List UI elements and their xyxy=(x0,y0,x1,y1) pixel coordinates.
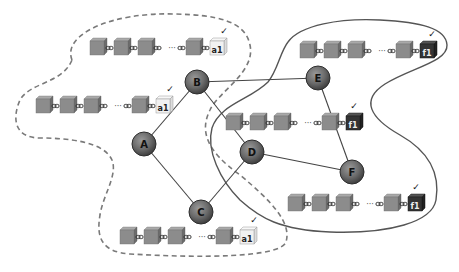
chain-tip-f1: f1 xyxy=(420,41,437,58)
svg-text:F: F xyxy=(349,167,356,178)
chain-ellipsis: ··· xyxy=(168,44,176,53)
svg-text:B: B xyxy=(193,77,201,88)
svg-text:a1: a1 xyxy=(212,46,223,55)
chain-ellipsis: ··· xyxy=(304,119,312,128)
node-f: F xyxy=(340,160,364,184)
svg-text:C: C xyxy=(197,207,204,218)
checkmark-icon: ✓ xyxy=(166,84,174,94)
node-e: E xyxy=(306,66,330,90)
chain-ellipsis: ··· xyxy=(378,47,386,56)
svg-text:f1: f1 xyxy=(422,49,431,58)
checkmark-icon: ✓ xyxy=(412,182,420,192)
svg-text:f1: f1 xyxy=(410,202,419,211)
node-d: D xyxy=(240,140,264,164)
svg-text:f1: f1 xyxy=(348,121,357,130)
svg-text:D: D xyxy=(248,147,256,158)
edge-a-c xyxy=(144,144,201,212)
chain-tip-f1: f1 xyxy=(346,113,363,130)
edge-d-f xyxy=(252,152,352,172)
chain-ellipsis: ··· xyxy=(198,233,206,242)
checkmark-icon: ✓ xyxy=(350,101,358,111)
checkmark-icon: ✓ xyxy=(428,29,436,39)
svg-text:A: A xyxy=(140,139,148,150)
chain-bottom-right: ··· f1 ✓ xyxy=(288,182,425,211)
chain-tip-f1: f1 xyxy=(408,194,425,211)
network-diagram: ··· a1 ✓ ··· a1 ✓ ··· a1 ✓ xyxy=(0,0,459,272)
edge-b-e xyxy=(197,78,318,82)
node-a: A xyxy=(132,132,156,156)
chain-left: ··· a1 ✓ xyxy=(36,84,174,113)
node-c: C xyxy=(189,200,213,224)
edge-b-d xyxy=(197,82,252,152)
svg-text:a1: a1 xyxy=(158,104,169,113)
chain-top-right: ··· f1 ✓ xyxy=(300,29,437,58)
chain-bottom: ··· a1 ✓ xyxy=(120,215,258,244)
chain-tip-a1: a1 xyxy=(210,38,227,55)
chain-top-left: ··· a1 ✓ xyxy=(90,26,228,55)
svg-text:a1: a1 xyxy=(242,235,253,244)
chain-middle: ··· f1 ✓ xyxy=(226,101,363,130)
checkmark-icon: ✓ xyxy=(220,26,228,36)
svg-text:E: E xyxy=(315,73,322,84)
checkmark-icon: ✓ xyxy=(250,215,258,225)
chain-ellipsis: ··· xyxy=(366,200,374,209)
chain-tip-a1: a1 xyxy=(240,227,257,244)
chain-ellipsis: ··· xyxy=(114,102,122,111)
chain-tip-a1: a1 xyxy=(156,96,173,113)
node-b: B xyxy=(185,70,209,94)
